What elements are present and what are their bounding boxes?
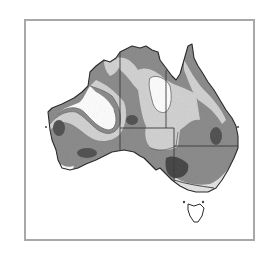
- zone-dark-queensland: [210, 127, 222, 145]
- island-dot: [45, 126, 47, 128]
- island-dot: [202, 201, 204, 203]
- island-dot: [237, 126, 239, 128]
- island-dot: [183, 201, 185, 203]
- map-zones: [40, 40, 250, 200]
- zone-dark-southwest: [77, 148, 97, 158]
- zone-dark-west-coast: [53, 120, 65, 136]
- tasmania: [188, 204, 204, 222]
- australia-map: [0, 0, 271, 262]
- zone-dark-northern-territory: [126, 115, 138, 125]
